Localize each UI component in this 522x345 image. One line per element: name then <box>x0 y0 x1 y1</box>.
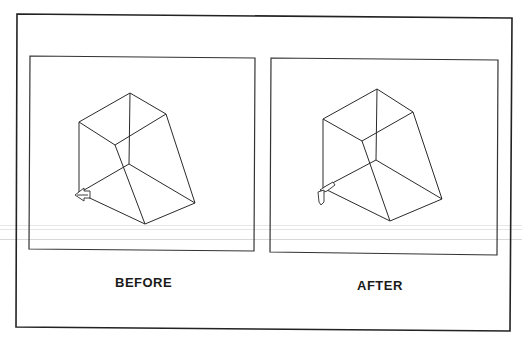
arrow-down-icon <box>318 182 335 205</box>
outer-frame <box>16 14 512 331</box>
arrow-left-icon <box>75 188 90 201</box>
after-panel-frame <box>270 58 498 255</box>
after-wireframe <box>323 89 442 221</box>
before-wireframe <box>79 93 195 224</box>
before-caption: BEFORE <box>115 275 172 290</box>
diagram-canvas <box>0 0 522 345</box>
before-panel <box>29 56 255 251</box>
after-panel <box>270 58 498 255</box>
after-caption: AFTER <box>357 278 403 293</box>
before-panel-frame <box>29 56 255 251</box>
